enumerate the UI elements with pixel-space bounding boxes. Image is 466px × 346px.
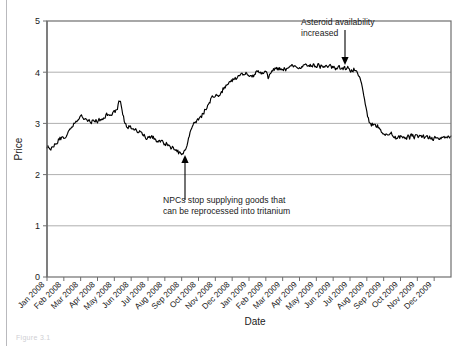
x-axis-title: Date	[244, 316, 266, 327]
y-axis-tick-label: 2	[35, 170, 40, 180]
y-axis-tick-labels: 012345	[35, 16, 40, 282]
asteroid-annotation-line-2: increased	[301, 28, 338, 38]
price-line-chart: 012345 Price Jan 2008Feb 2008Mar 2008Apr…	[0, 0, 466, 346]
y-axis-title: Price	[13, 137, 24, 160]
npc-annotation-line-1: NPCs stop supplying goods that	[163, 195, 286, 205]
plot-background	[47, 21, 451, 277]
asteroid-annotation-line-1: Asteroid availability	[301, 17, 375, 27]
y-axis-tick-label: 1	[35, 221, 40, 231]
y-axis-tick-label: 4	[35, 68, 40, 78]
figure-caption: Figure 3.1	[16, 334, 51, 341]
x-axis-tick-labels: Jan 2008Feb 2008Mar 2008Apr 2008May 2008…	[16, 280, 434, 312]
npc-annotation-line-2: can be reprocessed into tritanium	[163, 206, 290, 216]
y-axis-tick-label: 5	[35, 16, 40, 26]
y-axis-tick-label: 3	[35, 119, 40, 129]
figure-root: 012345 Price Jan 2008Feb 2008Mar 2008Apr…	[0, 0, 466, 346]
